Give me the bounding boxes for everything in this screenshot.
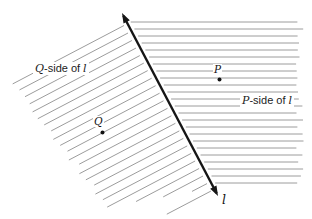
line-l-label: l <box>222 193 226 207</box>
q-side-text: -side of <box>44 62 80 74</box>
q-side-hatch-line <box>86 131 179 180</box>
q-side-hatch-line <box>60 93 159 145</box>
q-side-region-label: Q-side ofl <box>33 62 89 75</box>
half-plane-figure: Q-side ofl P-side ofl P Q l <box>0 0 312 219</box>
q-side-hatch-line <box>136 169 199 202</box>
q-side-hatch-line <box>95 146 187 194</box>
q-side-var-letter: Q <box>35 62 44 75</box>
diagram-canvas <box>0 0 312 219</box>
p-side-text: -side of <box>249 94 285 106</box>
arrowhead <box>210 186 218 197</box>
q-side-line-letter: l <box>83 62 87 75</box>
q-side-hatch-line <box>68 101 164 151</box>
p-side-line-letter: l <box>288 94 292 107</box>
q-side-hatch-line <box>103 153 191 199</box>
point-q-dot <box>101 131 105 135</box>
q-side-hatch-line <box>94 138 183 185</box>
q-side-hatch-line <box>107 161 195 207</box>
point-p-dot <box>218 78 222 82</box>
q-side-hatch-line <box>192 184 207 192</box>
point-q-label: Q <box>93 116 104 127</box>
arrowhead <box>122 13 130 24</box>
q-side-hatch-line <box>79 123 175 173</box>
q-side-hatch-line <box>163 176 203 197</box>
p-side-region-label: P-side ofl <box>240 94 294 107</box>
q-side-hatch-line <box>69 108 168 160</box>
q-side-hatch-line <box>167 191 211 214</box>
point-p-label: P <box>213 64 222 75</box>
q-side-hatch-line <box>13 26 124 84</box>
